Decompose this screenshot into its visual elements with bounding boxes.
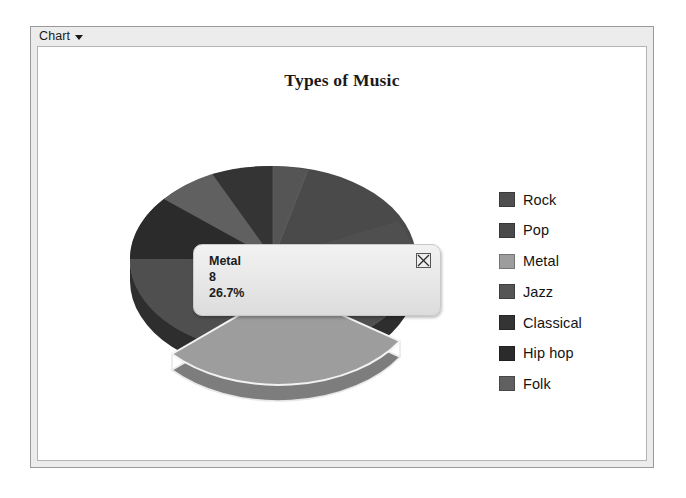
tooltip-percent: 26.7% [209, 285, 244, 301]
close-x-icon[interactable] [416, 253, 431, 268]
legend-swatch-icon [499, 223, 515, 238]
legend-item-folk[interactable]: Folk [499, 373, 647, 395]
legend-label: Metal [523, 253, 559, 269]
legend-swatch-icon [499, 254, 515, 269]
tooltip-count: 8 [209, 269, 244, 285]
legend-swatch-icon [499, 284, 515, 299]
legend-label: Rock [523, 192, 556, 208]
legend-item-rock[interactable]: Rock [499, 189, 647, 211]
legend-item-classical[interactable]: Classical [499, 312, 647, 334]
chart-plot-panel: Types of Music [37, 46, 647, 461]
legend-label: Hip hop [523, 345, 574, 361]
legend-label: Jazz [523, 284, 553, 300]
data-point-tooltip[interactable]: Metal 8 26.7% [193, 244, 441, 316]
legend-item-hip-hop[interactable]: Hip hop [499, 342, 647, 364]
legend-swatch-icon [499, 192, 515, 207]
legend-label: Folk [523, 376, 551, 392]
tooltip-category: Metal [209, 253, 244, 269]
legend-swatch-icon [499, 346, 515, 361]
legend-label: Pop [523, 222, 549, 238]
chart-menu-button[interactable]: Chart [33, 28, 89, 44]
legend-item-metal[interactable]: Metal [499, 250, 647, 272]
legend-swatch-icon [499, 376, 515, 391]
legend-item-pop[interactable]: Pop [499, 220, 647, 242]
legend-label: Classical [523, 315, 582, 331]
chevron-down-icon [75, 35, 83, 40]
chart-legend: Rock Pop Metal Jazz Classical Hip hop [499, 189, 647, 404]
chart-window: Chart Types of Music [30, 26, 654, 468]
legend-swatch-icon [499, 315, 515, 330]
tooltip-text: Metal 8 26.7% [209, 253, 244, 301]
chart-title: Types of Music [38, 70, 646, 91]
legend-item-jazz[interactable]: Jazz [499, 281, 647, 303]
chart-menu-label: Chart [39, 29, 70, 43]
